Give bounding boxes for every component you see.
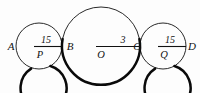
- radius-label-left: 15: [41, 34, 51, 45]
- point-label-c: C: [133, 40, 141, 52]
- circle-o-bold-arc: [62, 39, 140, 85]
- radius-label-right: 15: [165, 34, 175, 45]
- point-label-d: D: [187, 40, 196, 52]
- circle-q-bold-arc: [145, 66, 191, 93]
- center-label-p: P: [36, 49, 44, 60]
- center-label-q: Q: [160, 49, 168, 60]
- radius-label-middle: 3: [120, 34, 126, 45]
- point-label-a: A: [7, 40, 15, 52]
- geometry-figure: 15 3 15 P O Q A B C D: [0, 0, 200, 93]
- figure-canvas: 15 3 15 P O Q A B C D: [0, 0, 200, 93]
- point-label-b: B: [67, 40, 74, 52]
- circle-p-bold-arc: [21, 66, 67, 93]
- center-label-o: O: [97, 49, 105, 60]
